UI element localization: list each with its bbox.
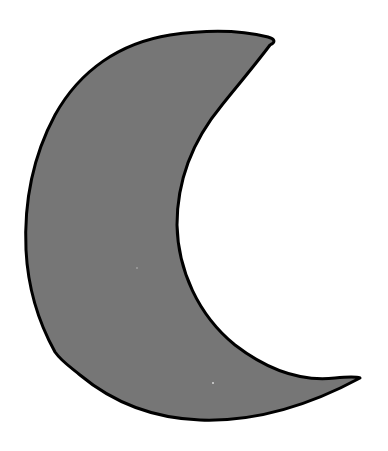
image-canvas: Crescent moon shape [0,0,388,451]
texture-speck [212,382,214,384]
crescent-moon-icon [0,0,388,451]
texture-speck [136,267,138,269]
